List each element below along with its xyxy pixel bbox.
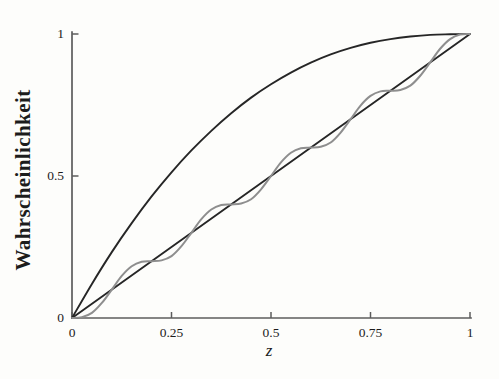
x-tick-label: 0 <box>69 325 76 340</box>
y-axis-ticks: 00.51 <box>47 26 78 325</box>
y-tick-label: 0 <box>57 310 64 325</box>
x-tick-label: 0.75 <box>359 325 383 340</box>
scanned-probability-figure: 00.250.50.751 00.51 z Wahrscheinlichkeit <box>0 0 499 379</box>
x-axis-ticks: 00.250.50.751 <box>69 312 474 340</box>
y-axis-title: Wahrscheinlichkeit <box>11 89 35 270</box>
x-tick-label: 0.25 <box>160 325 184 340</box>
x-axis-title: z <box>265 341 273 360</box>
data-series <box>72 34 470 318</box>
y-tick-label: 1 <box>57 26 64 41</box>
x-tick-label: 1 <box>467 325 474 340</box>
y-tick-label: 0.5 <box>47 168 64 183</box>
probability-chart: 00.250.50.751 00.51 z Wahrscheinlichkeit <box>0 0 499 379</box>
x-tick-label: 0.5 <box>263 325 280 340</box>
